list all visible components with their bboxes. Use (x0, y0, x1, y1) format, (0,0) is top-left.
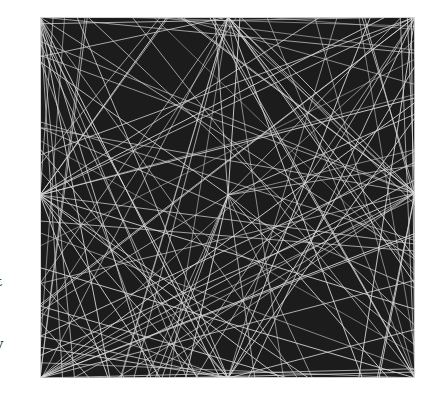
line-artwork (40, 17, 415, 378)
cropped-margin-text-3: y (0, 337, 3, 350)
cropped-margin-text-1: t (0, 275, 2, 288)
line-drawing (40, 17, 415, 378)
